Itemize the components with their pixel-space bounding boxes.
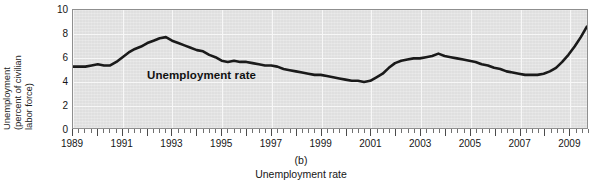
x-tick-minor xyxy=(414,129,415,133)
x-tick-minor xyxy=(327,129,328,133)
x-tick-minor xyxy=(588,129,589,133)
y-tick-label: 10 xyxy=(57,5,68,15)
x-tick-minor xyxy=(227,129,228,133)
x-tick-minor xyxy=(234,129,235,133)
x-tick-minor xyxy=(582,129,583,133)
x-tick-minor xyxy=(513,129,514,133)
x-tick-minor xyxy=(352,129,353,133)
x-tick-minor xyxy=(165,129,166,133)
series-inline-label: Unemployment rate xyxy=(147,69,256,81)
x-tick-major xyxy=(544,129,545,136)
figure-caption: (b) Unemployment rate xyxy=(0,154,602,181)
x-tick-minor xyxy=(209,129,210,133)
x-tick-minor xyxy=(140,129,141,133)
x-tick-minor xyxy=(290,129,291,133)
x-tick-major xyxy=(221,129,222,136)
x-tick-label: 2005 xyxy=(459,138,481,150)
x-tick-major xyxy=(72,129,73,136)
x-tick-minor xyxy=(252,129,253,133)
panel-letter: (b) xyxy=(0,154,602,167)
x-tick-label: 2003 xyxy=(409,138,431,150)
x-tick-label: 1999 xyxy=(310,138,332,150)
x-tick-minor xyxy=(451,129,452,133)
x-tick-major xyxy=(171,129,172,136)
x-tick-label: 2007 xyxy=(508,138,530,150)
x-tick-minor xyxy=(134,129,135,133)
x-tick-minor xyxy=(476,129,477,133)
x-tick-major xyxy=(420,129,421,136)
x-tick-label: 1993 xyxy=(160,138,182,150)
x-tick-minor xyxy=(489,129,490,133)
x-tick-minor xyxy=(383,129,384,133)
x-tick-minor xyxy=(215,129,216,133)
x-tick-minor xyxy=(259,129,260,133)
x-tick-minor xyxy=(184,129,185,133)
x-tick-label: 1989 xyxy=(61,138,83,150)
x-tick-minor xyxy=(576,129,577,133)
x-tick-minor xyxy=(240,129,241,133)
x-tick-minor xyxy=(563,129,564,133)
x-tick-minor xyxy=(557,129,558,133)
x-tick-minor xyxy=(302,129,303,133)
x-tick-minor xyxy=(464,129,465,133)
x-tick-minor xyxy=(159,129,160,133)
x-tick-minor xyxy=(116,129,117,133)
y-tick-label: 4 xyxy=(62,77,68,87)
x-tick-major xyxy=(445,129,446,136)
x-tick-minor xyxy=(389,129,390,133)
x-tick-minor xyxy=(314,129,315,133)
x-tick-minor xyxy=(153,129,154,133)
x-tick-minor xyxy=(439,129,440,133)
x-tick-major xyxy=(346,129,347,136)
x-tick-minor xyxy=(178,129,179,133)
x-axis-tick-labels: 1989199119931995199719992001200320052007… xyxy=(72,138,588,152)
x-tick-minor xyxy=(283,129,284,133)
x-tick-minor xyxy=(308,129,309,133)
x-tick-major xyxy=(296,129,297,136)
x-tick-minor xyxy=(203,129,204,133)
caption-title: Unemployment rate xyxy=(0,167,602,181)
y-axis-title-line-3: labor force) xyxy=(24,83,34,130)
x-tick-minor xyxy=(401,129,402,133)
x-tick-minor xyxy=(78,129,79,133)
x-tick-minor xyxy=(457,129,458,133)
x-axis-ticks xyxy=(72,129,588,137)
y-axis-title-line-2: (percent of civilian xyxy=(13,55,23,130)
y-tick-label: 8 xyxy=(62,29,68,39)
y-tick-label: 2 xyxy=(62,101,68,111)
x-tick-minor xyxy=(358,129,359,133)
x-tick-label: 2001 xyxy=(359,138,381,150)
x-tick-minor xyxy=(532,129,533,133)
unemployment-rate-figure: Unemployment (percent of civilian labor … xyxy=(0,0,602,192)
x-tick-minor xyxy=(84,129,85,133)
x-tick-minor xyxy=(91,129,92,133)
x-tick-minor xyxy=(507,129,508,133)
x-tick-minor xyxy=(339,129,340,133)
x-tick-minor xyxy=(333,129,334,133)
x-tick-major xyxy=(97,129,98,136)
x-tick-minor xyxy=(364,129,365,133)
x-tick-minor xyxy=(526,129,527,133)
x-tick-label: 2009 xyxy=(558,138,580,150)
y-axis-title-line-1: Unemployment xyxy=(2,67,12,130)
x-tick-minor xyxy=(482,129,483,133)
x-tick-major xyxy=(196,129,197,136)
x-tick-minor xyxy=(551,129,552,133)
x-tick-minor xyxy=(433,129,434,133)
x-tick-major xyxy=(246,129,247,136)
x-tick-major xyxy=(122,129,123,136)
x-tick-minor xyxy=(377,129,378,133)
x-tick-minor xyxy=(538,129,539,133)
x-tick-label: 1997 xyxy=(260,138,282,150)
x-tick-major xyxy=(395,129,396,136)
x-tick-minor xyxy=(109,129,110,133)
x-tick-major xyxy=(495,129,496,136)
x-tick-major xyxy=(470,129,471,136)
x-tick-major xyxy=(520,129,521,136)
x-tick-minor xyxy=(265,129,266,133)
x-tick-major xyxy=(569,129,570,136)
y-tick-label: 6 xyxy=(62,53,68,63)
x-tick-minor xyxy=(277,129,278,133)
x-tick-minor xyxy=(408,129,409,133)
x-tick-major xyxy=(321,129,322,136)
